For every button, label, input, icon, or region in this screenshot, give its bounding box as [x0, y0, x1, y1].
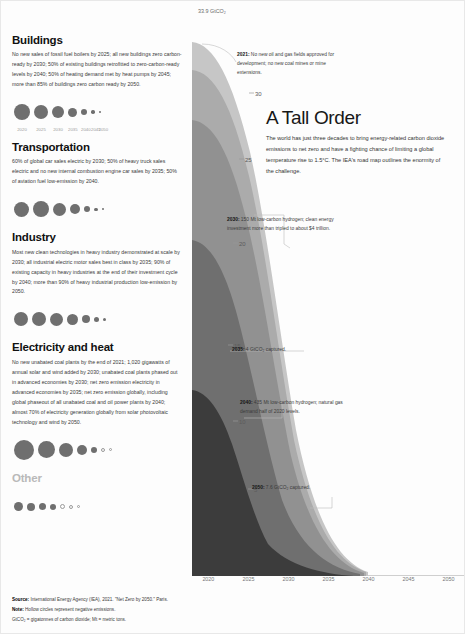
sector-buildings-body: No new sales of fossil fuel boilers by 2… — [12, 50, 182, 90]
sector-dot — [94, 208, 98, 212]
sector-dot-year: 2040 — [81, 127, 87, 132]
sector-electricity-and-heat-dots — [14, 437, 182, 463]
sector-industry-body: Most new clean technologies in heavy ind… — [12, 248, 182, 298]
sector-dot — [14, 202, 29, 217]
sector-industry: Industry Most new clean technologies in … — [12, 231, 182, 332]
anno-2050-year: 2050: — [252, 485, 265, 490]
sector-dot — [99, 111, 101, 113]
anno-2040-year: 2040: — [240, 400, 253, 405]
sector-dot — [82, 315, 90, 323]
sector-dot-year: 2030 — [52, 127, 64, 132]
anno-2030-text: 150 Mt low-carbon hydrogen; clean energy… — [227, 217, 334, 231]
sector-transportation-title: Transportation — [12, 141, 182, 154]
sector-sidebar: Buildings No new sales of fossil fuel bo… — [0, 0, 192, 634]
sector-dot — [60, 504, 65, 509]
sector-dot-year: 2050 — [99, 127, 101, 132]
sector-dot — [32, 312, 46, 326]
sector-electricity-and-heat: Electricity and heat No new unabated coa… — [12, 341, 182, 462]
sector-dot — [91, 110, 95, 114]
anno-2030-year: 2030: — [227, 217, 240, 222]
anno-2021-text: No new oil and gas fields approved for d… — [237, 52, 334, 75]
sector-dot — [101, 448, 105, 452]
sector-industry-dots — [14, 306, 182, 332]
y-tick-25: 25 — [245, 157, 252, 163]
sector-dot — [59, 443, 73, 457]
sector-dot — [50, 313, 63, 326]
sector-dot — [69, 505, 73, 509]
sector-dot — [33, 201, 49, 217]
sector-dot — [53, 203, 66, 216]
sector-dot — [68, 108, 77, 117]
chart-total-label: 33.9 GtCO₂ — [198, 8, 226, 14]
sector-other: Other — [12, 472, 182, 520]
sector-dot-year: 2035 — [68, 127, 77, 132]
sector-transportation-body: 60% of global car sales electric by 2030… — [12, 157, 182, 187]
anno-2050: 2050: 7.6 GtCO₂ captured. — [252, 483, 332, 492]
sector-dot — [70, 204, 80, 214]
anno-2050-text: 7.6 GtCO₂ captured. — [265, 485, 311, 490]
anno-2021-year: 2021: — [237, 52, 250, 57]
anno-2021: 2021: No new oil and gas fields approved… — [237, 50, 347, 77]
anno-2040: 2040: 435 Mt low-carbon hydrogen; natura… — [240, 398, 360, 416]
sector-dot — [14, 440, 34, 460]
sector-dot — [50, 504, 56, 510]
sector-buildings: Buildings No new sales of fossil fuel bo… — [12, 34, 182, 132]
sector-dot — [91, 447, 97, 453]
sector-electricity-and-heat-body: No new unabated coal plants by the end o… — [12, 358, 182, 428]
sector-buildings-years: 2020202520302035204020452050 — [14, 127, 182, 132]
anno-2030: 2030: 150 Mt low-carbon hydrogen; clean … — [227, 215, 347, 233]
sector-dot — [38, 441, 55, 458]
sector-dot — [84, 206, 90, 212]
page-subtitle: The world has just three decades to brin… — [266, 133, 448, 177]
anno-2035-text: 4 GtCO₂ captured. — [245, 347, 287, 352]
sector-transportation: Transportation 60% of global car sales e… — [12, 141, 182, 222]
emissions-chart: 30 25 20 15 10 5 — [192, 0, 465, 634]
y-tick-30: 30 — [255, 91, 262, 97]
sector-dot — [102, 208, 104, 210]
sector-electricity-and-heat-title: Electricity and heat — [12, 341, 182, 354]
sector-dot — [77, 505, 80, 508]
sector-dot-year: 2020 — [14, 127, 30, 132]
infographic-page: 30 25 20 15 10 5 — [0, 0, 465, 634]
sector-dot — [52, 106, 64, 118]
sector-industry-title: Industry — [12, 231, 182, 244]
sector-other-dots — [14, 494, 182, 520]
sector-dot — [94, 317, 99, 322]
sector-other-title: Other — [12, 472, 182, 485]
sector-dot — [81, 109, 87, 115]
page-title: A Tall Order — [266, 108, 448, 128]
sector-dot — [14, 312, 28, 326]
sector-dot — [14, 502, 23, 511]
sector-dot — [34, 105, 48, 119]
sector-dot-year: 2025 — [34, 127, 48, 132]
sector-dot — [109, 448, 112, 451]
sector-dot — [103, 318, 106, 321]
sector-buildings-dots — [14, 99, 182, 125]
emissions-chart-svg: 30 25 20 15 10 5 — [192, 0, 465, 634]
sector-buildings-title: Buildings — [12, 34, 182, 47]
sector-dot — [14, 104, 30, 120]
sector-dot — [67, 314, 78, 325]
y-tick-10: 10 — [239, 419, 246, 425]
anno-2035: 2035: 4 GtCO₂ captured. — [232, 345, 350, 354]
y-tick-20: 20 — [239, 241, 246, 247]
headline-block: A Tall Order The world has just three de… — [266, 108, 448, 177]
sector-dot — [27, 503, 35, 511]
sector-dot — [77, 445, 87, 455]
sector-transportation-dots — [14, 196, 182, 222]
infographic-body: 30 25 20 15 10 5 — [0, 0, 465, 634]
anno-2035-year: 2035: — [232, 347, 245, 352]
sector-dot-year: 2045 — [91, 127, 95, 132]
sector-dot — [39, 503, 46, 510]
anno-2040-text: 435 Mt low-carbon hydrogen; natural gas … — [240, 400, 343, 414]
